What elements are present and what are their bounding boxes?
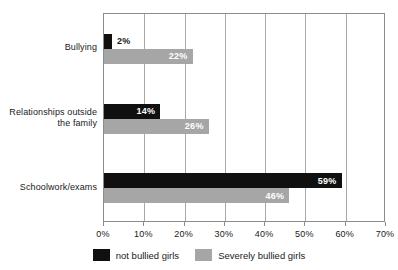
legend-swatch-icon: [93, 249, 110, 261]
legend-item-severely-bullied-girls[interactable]: Severely bullied girls: [195, 249, 305, 261]
bar-value-label: 46%: [265, 191, 289, 201]
bar-not-bullied-girls: 2%: [104, 34, 112, 49]
x-axis-tick: [103, 222, 104, 226]
category-label: Relationships outside the family: [9, 107, 97, 129]
legend-label: Severely bullied girls: [218, 250, 305, 261]
x-axis-tick-label: 30%: [215, 229, 234, 239]
x-axis-tick-label: 40%: [255, 229, 274, 239]
x-axis-tick: [184, 222, 185, 226]
bar-not-bullied-girls: 59%: [104, 173, 342, 188]
bar-not-bullied-girls: 14%: [104, 104, 160, 119]
x-axis-tick-label: 10%: [134, 229, 153, 239]
gridline: [346, 14, 347, 221]
bar-value-label: 59%: [318, 176, 342, 186]
legend-swatch-icon: [195, 249, 212, 261]
bar-severely-bullied-girls: 22%: [104, 49, 193, 64]
x-axis-tick: [345, 222, 346, 226]
bar-value-label: 22%: [169, 51, 193, 61]
legend-label: not bullied girls: [116, 250, 179, 261]
x-axis-tick: [304, 222, 305, 226]
bar-severely-bullied-girls: 26%: [104, 119, 209, 134]
x-axis-tick: [143, 222, 144, 226]
bar-chart: 2%22%14%26%59%46% BullyingRelationships …: [0, 0, 398, 270]
chart-legend: not bullied girls Severely bullied girls: [0, 249, 398, 261]
bar-value-label: 14%: [136, 106, 160, 116]
bar-value-label: 26%: [185, 121, 209, 131]
x-axis-tick-label: 70%: [376, 229, 395, 239]
x-axis-tick: [385, 222, 386, 226]
gridline: [305, 14, 306, 221]
category-label: Schoolwork/exams: [20, 182, 97, 193]
plot-area: 2%22%14%26%59%46%: [103, 13, 385, 222]
x-axis-tick-label: 50%: [295, 229, 314, 239]
legend-item-not-bullied-girls[interactable]: not bullied girls: [93, 249, 179, 261]
bar-value-label: 2%: [117, 36, 131, 46]
x-axis-tick-label: 60%: [335, 229, 354, 239]
x-axis-tick-label: 20%: [174, 229, 193, 239]
x-axis-tick: [224, 222, 225, 226]
bar-severely-bullied-girls: 46%: [104, 188, 289, 203]
x-axis-tick: [264, 222, 265, 226]
category-label: Bullying: [65, 42, 97, 53]
x-axis-tick-label: 0%: [96, 229, 109, 239]
